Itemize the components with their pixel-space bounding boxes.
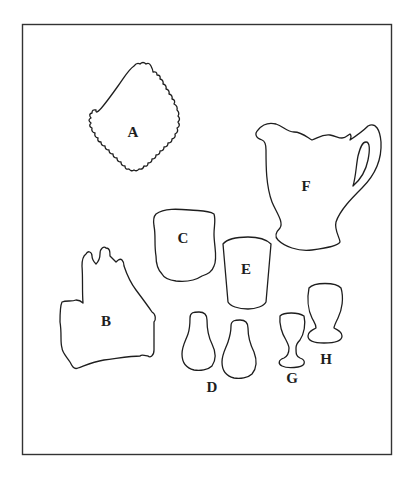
item-f-pitcher: F xyxy=(256,123,381,250)
item-a-plate: A xyxy=(89,63,180,171)
castle-dish-outline xyxy=(60,247,155,368)
label-b: B xyxy=(101,313,111,329)
item-h-goblet: H xyxy=(308,284,342,368)
shaker-left-outline xyxy=(182,312,215,370)
goblet-outline xyxy=(308,284,342,344)
item-d-shakers: D xyxy=(182,312,256,395)
label-c: C xyxy=(178,230,189,246)
pitcher-outline xyxy=(256,123,381,250)
plate-outline xyxy=(89,63,180,171)
item-b-castle-dish: B xyxy=(60,247,155,368)
label-a: A xyxy=(128,124,139,140)
label-d: D xyxy=(207,379,218,395)
shaker-right-outline xyxy=(222,320,256,378)
cordial-glass-outline xyxy=(279,313,305,368)
pitcher-handle-opening xyxy=(353,142,369,186)
label-h: H xyxy=(320,351,332,367)
label-g: G xyxy=(286,370,298,386)
label-e: E xyxy=(241,261,251,277)
glassware-diagram: A F C E B D G H xyxy=(0,0,416,478)
item-g-cordial-glass: G xyxy=(279,313,305,386)
item-c-bowl: C xyxy=(154,209,216,281)
item-e-tumbler: E xyxy=(223,237,271,309)
label-f: F xyxy=(301,178,310,194)
